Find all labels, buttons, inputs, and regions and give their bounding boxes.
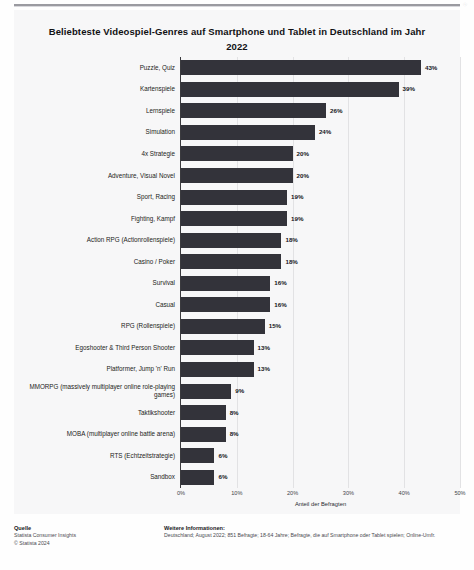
- bar-value-label: 19%: [291, 215, 303, 223]
- bar-value-label: 13%: [258, 344, 270, 352]
- x-tick-label: 0%: [177, 490, 185, 496]
- category-label: Egoshooter & Third Person Shooter: [20, 344, 175, 352]
- bar: [181, 319, 265, 334]
- bar: [181, 82, 399, 97]
- bar: [181, 190, 287, 205]
- bar-row: Kartenspiele39%: [14, 79, 460, 101]
- bar: [181, 427, 226, 442]
- bar-row: Simulation24%: [14, 122, 460, 144]
- footer-info-heading: Weitere Informationen:: [164, 524, 474, 532]
- category-label: Lernspiele: [20, 107, 175, 115]
- chart-card: Beliebteste Videospiel-Genres auf Smartp…: [14, 10, 460, 514]
- category-label: Taktikshooter: [20, 409, 175, 417]
- chart-footer: Quelle Statista Consumer Insights © Stat…: [14, 524, 460, 558]
- bar: [181, 168, 293, 183]
- category-label: Sport, Racing: [20, 193, 175, 201]
- bar-row: Fighting, Kampf19%: [14, 208, 460, 230]
- bar-value-label: 9%: [235, 387, 244, 395]
- bar-row: 4x Strategie20%: [14, 143, 460, 165]
- bar-value-label: 8%: [230, 409, 239, 417]
- bar: [181, 254, 281, 269]
- chart-page: ⓘ Beliebteste Videospiel-Genres auf Smar…: [0, 0, 474, 570]
- bar: [181, 125, 315, 140]
- bar-value-label: 43%: [425, 64, 437, 72]
- bar-value-label: 24%: [319, 128, 331, 136]
- corner-mark-icon: ⓘ: [463, 2, 471, 7]
- bar-row: MOBA (multiplayer online battle arena)8%: [14, 423, 460, 445]
- top-divider-shadow: [14, 6, 460, 7]
- x-axis-title: Anteil der Befragten: [181, 501, 460, 507]
- bar: [181, 340, 254, 355]
- bar: [181, 103, 326, 118]
- bar-value-label: 18%: [285, 258, 297, 266]
- bar-row: Taktikshooter8%: [14, 402, 460, 424]
- bar-value-label: 6%: [218, 473, 227, 481]
- category-label: Action RPG (Actionrollenspiele): [20, 236, 175, 244]
- bar: [181, 146, 293, 161]
- bar-row: Sport, Racing19%: [14, 186, 460, 208]
- bar-row: Casino / Poker18%: [14, 251, 460, 273]
- bar-series: Puzzle, Quiz43%Kartenspiele39%Lernspiele…: [14, 57, 460, 488]
- bar: [181, 448, 214, 463]
- bar-value-label: 39%: [403, 85, 415, 93]
- category-label: Platformer, Jump 'n' Run: [20, 365, 175, 373]
- x-tick-label: 20%: [287, 490, 298, 496]
- bar-value-label: 16%: [274, 301, 286, 309]
- bar-row: Sandbox6%: [14, 466, 460, 488]
- footer-source-block: Quelle Statista Consumer Insights © Stat…: [14, 524, 149, 547]
- gridline: [460, 57, 461, 488]
- bar: [181, 362, 254, 377]
- bar-value-label: 16%: [274, 279, 286, 287]
- category-label: Kartenspiele: [20, 85, 175, 93]
- bar: [181, 384, 231, 399]
- bar-row: RPG (Rollenspiele)15%: [14, 316, 460, 338]
- plot-area: Puzzle, Quiz43%Kartenspiele39%Lernspiele…: [14, 57, 460, 497]
- bar-row: Lernspiele26%: [14, 100, 460, 122]
- category-label: Fighting, Kampf: [20, 215, 175, 223]
- bar-row: Casual16%: [14, 294, 460, 316]
- bar-row: RTS (Echtzeitstrategie)6%: [14, 445, 460, 467]
- category-label: Simulation: [20, 128, 175, 136]
- footer-info-block: Weitere Informationen: Deutschland; Augu…: [164, 524, 474, 540]
- bar: [181, 276, 270, 291]
- category-label: Puzzle, Quiz: [20, 64, 175, 72]
- category-label: RPG (Rollenspiele): [20, 322, 175, 330]
- bar-value-label: 18%: [285, 236, 297, 244]
- footer-source-line: Statista Consumer Insights: [14, 532, 149, 540]
- bar-value-label: 20%: [297, 150, 309, 158]
- category-label: MMORPG (massively multiplayer online rol…: [20, 383, 175, 399]
- bar-row: MMORPG (massively multiplayer online rol…: [14, 380, 460, 402]
- category-label: MOBA (multiplayer online battle arena): [20, 430, 175, 438]
- bar-value-label: 15%: [269, 322, 281, 330]
- bar: [181, 470, 214, 485]
- bar: [181, 233, 281, 248]
- category-label: Survival: [20, 279, 175, 287]
- bar-row: Egoshooter & Third Person Shooter13%: [14, 337, 460, 359]
- footer-info-line: Deutschland; August 2022; 851 Befragte; …: [164, 532, 474, 540]
- category-label: Casual: [20, 301, 175, 309]
- bar-row: Adventure, Visual Novel20%: [14, 165, 460, 187]
- chart-title: Beliebteste Videospiel-Genres auf Smartp…: [44, 24, 430, 54]
- footer-source-heading: Quelle: [14, 524, 149, 532]
- x-tick-label: 30%: [343, 490, 354, 496]
- bar-value-label: 6%: [218, 452, 227, 460]
- bar-value-label: 8%: [230, 430, 239, 438]
- bar: [181, 405, 226, 420]
- bar-value-label: 19%: [291, 193, 303, 201]
- footer-copyright-line: © Statista 2024: [14, 540, 149, 548]
- bar: [181, 211, 287, 226]
- bar-value-label: 13%: [258, 365, 270, 373]
- x-tick-label: 40%: [399, 490, 410, 496]
- bar-value-label: 26%: [330, 107, 342, 115]
- bar-row: Platformer, Jump 'n' Run13%: [14, 359, 460, 381]
- x-tick-label: 50%: [454, 490, 465, 496]
- bar-row: Puzzle, Quiz43%: [14, 57, 460, 79]
- category-label: RTS (Echtzeitstrategie): [20, 452, 175, 460]
- x-tick-label: 10%: [231, 490, 242, 496]
- category-label: 4x Strategie: [20, 150, 175, 158]
- bar-row: Survival16%: [14, 273, 460, 295]
- bar: [181, 60, 421, 75]
- bar-value-label: 20%: [297, 172, 309, 180]
- category-label: Adventure, Visual Novel: [20, 172, 175, 180]
- category-label: Sandbox: [20, 473, 175, 481]
